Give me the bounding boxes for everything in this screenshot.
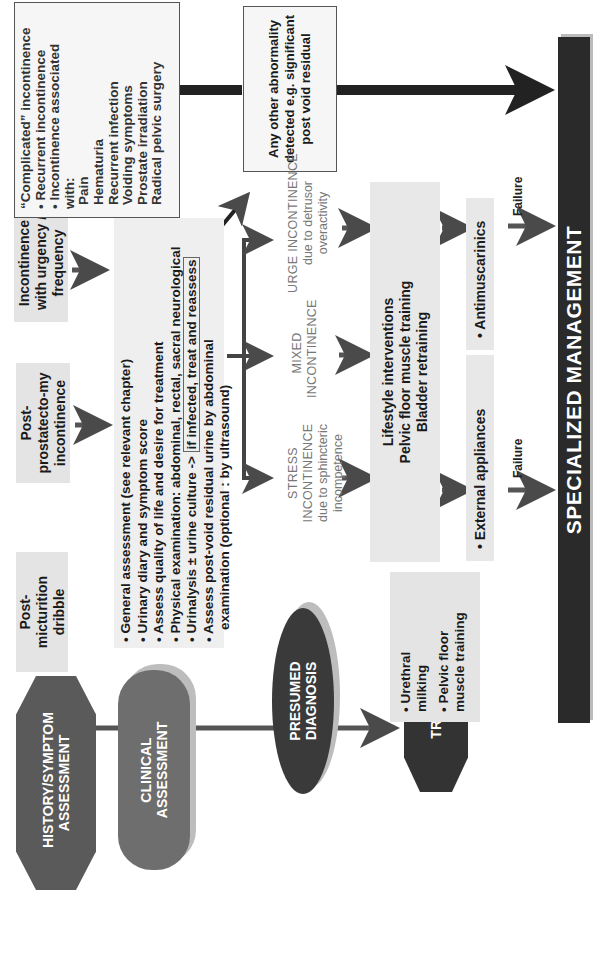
history-urgency: Incontinence with urgency / frequency xyxy=(14,204,68,322)
specialized-management-bar: SPECIALIZED MANAGEMENT xyxy=(558,37,590,723)
clinical-assessment-list: General assessment (see relevant chapter… xyxy=(114,218,224,648)
complicated-incontinence-box: “Complicated” incontinence Recurrent inc… xyxy=(14,2,180,218)
clinical-item: Urinary diary and symptom score xyxy=(135,224,152,642)
clinical-item-urinalysis: Urinalysis ± urine culture -> if infecte… xyxy=(184,224,201,642)
treatment-dribble: Urethral milking Pelvic floor muscle tra… xyxy=(390,572,480,722)
failure-label-right: Failure xyxy=(511,177,525,216)
diagnosis-mixed: MIXED INCONTINENCE xyxy=(290,308,320,398)
failure-label-left: Failure xyxy=(511,439,525,478)
stage-presumed-diagnosis-shape: PRESUMED DIAGNOSIS xyxy=(272,608,334,794)
urinalysis-note: if infected, treat and reassess xyxy=(183,257,200,453)
treatment-antimuscarinics: Antimuscarinics xyxy=(466,198,494,350)
clinical-item: Assess post-void residual urine by abdom… xyxy=(201,224,218,642)
treatment-lifestyle: Lifestyle interventions Pelvic floor mus… xyxy=(370,182,440,562)
clinical-item: Assess quality of life and desire for tr… xyxy=(151,224,168,642)
history-post-micturition: Post-micturition dribble xyxy=(16,552,68,672)
complicated-title: “Complicated” incontinence xyxy=(19,11,34,209)
diagnosis-urge: URGE INCONTINENCE due to detrusor overac… xyxy=(286,148,331,298)
treatment-external-appliances: External appliances xyxy=(466,355,494,561)
clinical-item: General assessment (see relevant chapter… xyxy=(118,224,135,642)
history-post-prostatectomy: Post-prostatecto-my incontinence xyxy=(16,363,70,483)
clinical-item-continuation: examination (optional : by ultrasound) xyxy=(217,224,234,642)
stage-clinical-assessment: CLINICAL ASSESSMENT xyxy=(118,670,190,870)
diagnosis-stress: STRESS INCONTINENCE due to sphincteric i… xyxy=(286,398,346,548)
stage-history-symptom: HISTORY/SYMPTOM ASSESSMENT xyxy=(16,676,96,890)
clinical-item: Physical examination: abdominal, rectal,… xyxy=(168,224,185,642)
flowchart-canvas: HISTORY/SYMPTOM ASSESSMENT CLINICAL ASSE… xyxy=(0,0,596,968)
